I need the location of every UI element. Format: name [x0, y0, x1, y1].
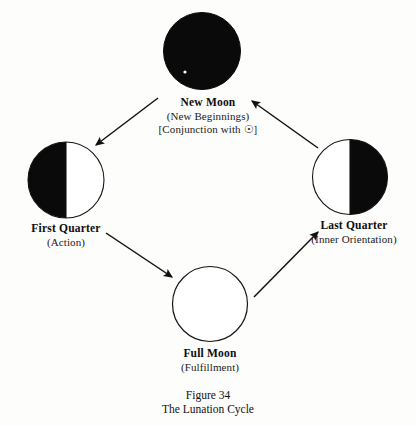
moon-first-quarter [28, 142, 104, 218]
figure-caption: Figure 34 The Lunation Cycle [0, 388, 416, 417]
new-moon-conjunction-note: [Conjunction with ☉] [108, 123, 308, 136]
last-quarter-title: Last Quarter [292, 219, 416, 233]
first-quarter-subtitle: (Action) [0, 236, 132, 249]
new-moon-subtitle: (New Beginnings) [108, 110, 308, 123]
lunation-cycle-diagram: New Moon (New Beginnings) [Conjunction w… [0, 0, 416, 426]
last-quarter-subtitle: (Inner Orientation) [292, 233, 416, 246]
full-moon-title: Full Moon [130, 347, 290, 361]
label-first-quarter: First Quarter (Action) [0, 222, 132, 249]
moon-new-moon [164, 13, 241, 90]
full-moon-subtitle: (Fulfillment) [130, 361, 290, 374]
label-new-moon: New Moon (New Beginnings) [Conjunction w… [108, 96, 308, 136]
figure-number: Figure 34 [0, 388, 416, 402]
figure-title: The Lunation Cycle [0, 402, 416, 416]
moon-last-quarter [313, 139, 388, 215]
new-moon-title: New Moon [108, 96, 308, 110]
label-last-quarter: Last Quarter (Inner Orientation) [292, 219, 416, 246]
moon-full-moon [173, 267, 248, 342]
first-quarter-title: First Quarter [0, 222, 132, 236]
label-full-moon: Full Moon (Fulfillment) [130, 347, 290, 374]
